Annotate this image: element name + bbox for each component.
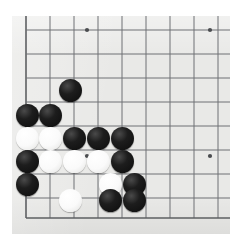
black-stone[interactable]	[63, 127, 86, 150]
black-stone[interactable]	[123, 189, 146, 212]
white-stone[interactable]	[87, 150, 110, 173]
white-stone[interactable]	[63, 150, 86, 173]
black-stone[interactable]	[111, 127, 134, 150]
black-stone[interactable]	[111, 150, 134, 173]
black-stone[interactable]	[39, 104, 62, 127]
black-stone[interactable]	[99, 189, 122, 212]
black-stone[interactable]	[16, 173, 39, 196]
white-stone[interactable]	[39, 127, 62, 150]
black-stone[interactable]	[16, 150, 39, 173]
go-board-screenshot	[0, 0, 230, 247]
white-stone[interactable]	[59, 189, 82, 212]
black-stone[interactable]	[87, 127, 110, 150]
white-stone[interactable]	[16, 127, 39, 150]
black-stone[interactable]	[59, 79, 82, 102]
stone-layer	[0, 0, 230, 247]
white-stone[interactable]	[39, 150, 62, 173]
black-stone[interactable]	[16, 104, 39, 127]
